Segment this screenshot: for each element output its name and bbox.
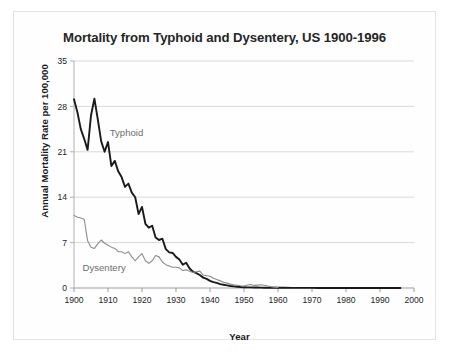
x-tick-label-1990: 1990 [370,295,389,305]
y-tick-label-7: 7 [62,238,67,248]
series-annotation-dysentery: Dysentery [83,262,126,273]
y-tick-label-35: 35 [57,56,67,66]
y-tick-label-0: 0 [62,283,67,293]
x-tick-label-1930: 1930 [166,295,185,305]
x-tick-label-1900: 1900 [64,295,83,305]
y-tick-label-21: 21 [57,147,67,157]
figure-frame: Mortality from Typhoid and Dysentery, US… [13,11,436,340]
x-tick-label-1960: 1960 [268,295,287,305]
series-annotation-typhoid: Typhoid [110,127,144,138]
y-tick-label-28: 28 [57,102,67,112]
gridlines-group [74,61,414,243]
x-tick-label-1980: 1980 [336,295,355,305]
x-tick-label-1970: 1970 [302,295,321,305]
y-tick-label-14: 14 [57,192,67,202]
x-tick-labels-group: 1900191019201930194019501960197019801990… [64,295,423,305]
series-annotations-group: TyphoidDysentery [83,127,144,274]
x-tick-label-1940: 1940 [200,295,219,305]
y-tick-labels-group: 0714212835 [57,56,74,293]
x-tick-label-1920: 1920 [132,295,151,305]
x-tick-label-2000: 2000 [404,295,423,305]
x-tick-label-1910: 1910 [98,295,117,305]
series-line-dysentery [74,215,278,287]
x-tick-label-1950: 1950 [234,295,253,305]
chart-plot-area: 0714212835 19001910192019301940195019601… [14,12,437,341]
